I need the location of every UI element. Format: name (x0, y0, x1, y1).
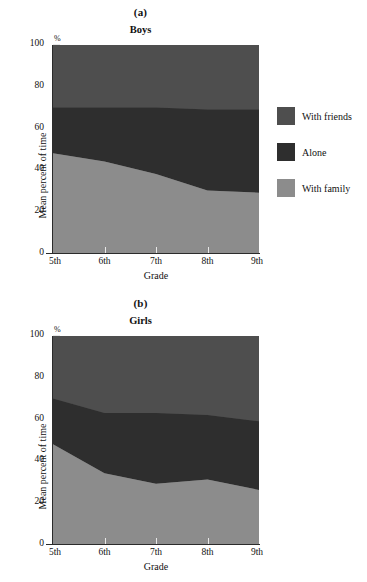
x-axis-line-a (52, 253, 260, 254)
x-tick-9th-a (259, 247, 260, 253)
y-tick-label-20-a: 20 (10, 206, 44, 216)
area-with-friends-a (53, 45, 259, 109)
chart-panel-boys: (a) Boys % Mean percent of time 0 20 40 … (0, 0, 367, 291)
x-tick-7th-a (156, 247, 157, 253)
legend-label-with-friends-a: With friends (302, 111, 352, 122)
y-tick-label-100-b: 100 (10, 330, 44, 340)
legend-item-with-family-a: With family (277, 178, 365, 198)
legend-swatch-with-friends-icon-a (277, 107, 295, 125)
y-axis-unit-a: % (54, 35, 61, 43)
stacked-area-svg-a (53, 45, 259, 253)
plot-area-boys (53, 45, 259, 253)
x-tick-7th-b (156, 538, 157, 544)
x-axis-title-a: Grade (53, 270, 259, 281)
legend-item-alone-a: Alone (277, 142, 365, 162)
x-tick-6th-a (105, 247, 106, 253)
y-tick-label-60-a: 60 (10, 123, 44, 133)
x-tick-label-5th-b: 5th (49, 547, 61, 558)
y-axis-labels-a: 0 20 40 60 80 100 (10, 0, 44, 291)
y-tick-label-40-b: 40 (10, 456, 44, 466)
y-axis-labels-b: 0 20 40 60 80 100 (10, 291, 44, 582)
x-tick-label-9th-a: 9th (251, 256, 263, 267)
x-axis-title-b: Grade (53, 561, 259, 572)
x-tick-label-8th-b: 8th (201, 547, 213, 558)
y-tick-label-0-b: 0 (10, 539, 44, 549)
x-tick-label-6th-a: 6th (98, 256, 110, 267)
x-tick-label-9th-b: 9th (251, 547, 263, 558)
chart-panel-girls: (b) Girls % Mean percent of time 0 20 40… (0, 291, 367, 582)
y-tick-label-0-a: 0 (10, 248, 44, 258)
legend-label-with-family-a: With family (302, 183, 350, 194)
plot-area-girls (53, 336, 259, 544)
x-tick-6th-b (105, 538, 106, 544)
panel-letter-b: (b) (0, 297, 367, 309)
x-tick-5th-b (53, 538, 54, 544)
stacked-area-svg-b (53, 336, 259, 544)
y-tick-label-80-a: 80 (10, 81, 44, 91)
x-tick-8th-b (208, 538, 209, 544)
x-tick-9th-b (259, 538, 260, 544)
x-tick-label-7th-b: 7th (150, 547, 162, 558)
stacked-area-boys (53, 45, 259, 253)
legend-swatch-alone-icon-a (277, 143, 295, 161)
legend-swatch-with-family-icon-a (277, 179, 295, 197)
y-tick-label-80-b: 80 (10, 372, 44, 382)
y-axis-unit-b: % (54, 326, 61, 334)
x-axis-line-b (52, 544, 260, 545)
x-tick-8th-a (208, 247, 209, 253)
legend-boys: With friends Alone With family (277, 106, 365, 198)
y-tick-label-100-a: 100 (10, 39, 44, 49)
legend-label-alone-a: Alone (302, 147, 326, 158)
stacked-area-girls (53, 336, 259, 544)
x-tick-label-8th-a: 8th (201, 256, 213, 267)
legend-item-with-friends-a: With friends (277, 106, 365, 126)
y-tick-label-40-a: 40 (10, 165, 44, 175)
x-tick-label-6th-b: 6th (98, 547, 110, 558)
y-tick-label-20-b: 20 (10, 497, 44, 507)
x-tick-5th-a (53, 247, 54, 253)
x-tick-label-5th-a: 5th (49, 256, 61, 267)
y-tick-label-60-b: 60 (10, 414, 44, 424)
x-tick-label-7th-a: 7th (150, 256, 162, 267)
panel-letter-a: (a) (0, 6, 367, 18)
